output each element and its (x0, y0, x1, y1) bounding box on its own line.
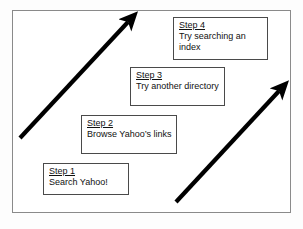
step-2-title: Step 2 (87, 118, 113, 129)
step-box-3: Step 3 Try another directory (130, 67, 225, 106)
step-4-title: Step 4 (179, 20, 205, 31)
step-4-body: Try searching an index (179, 31, 263, 53)
step-3-body: Try another directory (136, 81, 220, 92)
step-box-1: Step 1 Search Yahoo! (43, 163, 129, 195)
step-box-2: Step 2 Browse Yahoo’s links (81, 115, 177, 154)
step-1-body: Search Yahoo! (49, 177, 124, 188)
step-box-4: Step 4 Try searching an index (173, 17, 268, 60)
step-2-body: Browse Yahoo’s links (87, 129, 172, 140)
step-3-title: Step 3 (136, 70, 162, 81)
diagram-canvas: Step 1 Search Yahoo! Step 2 Browse Yahoo… (0, 0, 303, 229)
step-1-title: Step 1 (49, 166, 75, 177)
